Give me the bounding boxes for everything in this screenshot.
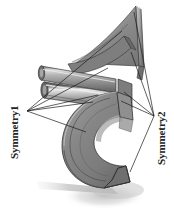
symmetry1-label-text: Symmetry1 xyxy=(8,106,20,159)
symmetry1-label: Symmetry1 xyxy=(8,106,20,159)
figure-root: Symmetry1 Symmetry2 xyxy=(0,0,174,218)
figure-canvas: Symmetry1 Symmetry2 xyxy=(0,0,174,218)
symmetry2-label: Symmetry2 xyxy=(155,111,167,165)
symmetry2-label-text: Symmetry2 xyxy=(155,111,167,165)
c-shaped-ring xyxy=(62,92,133,188)
